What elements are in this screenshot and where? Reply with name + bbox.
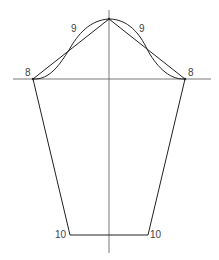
label-left-curve: 9	[71, 23, 77, 34]
label-right-curve: 9	[139, 23, 145, 34]
label-right-hem: 10	[150, 229, 162, 240]
apex-point	[108, 18, 110, 20]
left-cap-point	[32, 78, 34, 80]
right-cap-point	[184, 78, 186, 80]
label-right-cap: 8	[188, 67, 194, 78]
label-left-cap: 8	[25, 67, 31, 78]
label-left-hem: 10	[55, 229, 67, 240]
sleeve-pattern-diagram: 8 8 9 9 10 10	[0, 0, 219, 260]
